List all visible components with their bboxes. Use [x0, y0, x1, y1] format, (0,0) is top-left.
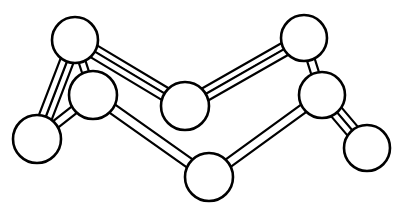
lower-left-atom — [13, 115, 61, 163]
center-atom — [161, 82, 209, 130]
upper-mid-left-atom — [69, 71, 117, 119]
molecule-canvas — [0, 0, 406, 217]
bottom-right-atom — [344, 125, 390, 171]
upper-mid-right-atom — [299, 72, 345, 118]
bottom-center-atom — [185, 153, 233, 201]
top-right-atom — [281, 15, 327, 61]
bond-a5-a7-line-1 — [221, 101, 311, 170]
top-left-atom — [52, 17, 98, 63]
bond-a4-a6-line-1 — [197, 40, 289, 97]
bond-a4-a6-line-2 — [200, 46, 292, 103]
molecule-figure — [0, 0, 406, 217]
